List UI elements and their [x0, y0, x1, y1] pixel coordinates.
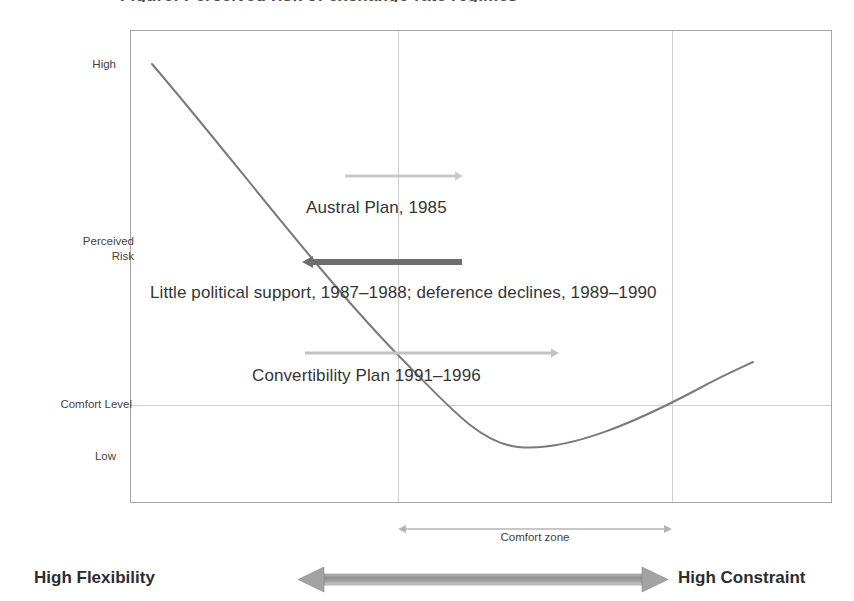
y-axis-label-perceived-line1: Perceived: [83, 234, 134, 249]
axis-label-high-flexibility: High Flexibility: [34, 568, 155, 588]
annotation-label-little-political-support: Little political support, 1987–1988; def…: [150, 283, 657, 303]
annotation-arrow-little-political-support: [302, 255, 462, 269]
flexibility-constraint-spectrum-arrow: [298, 566, 668, 594]
annotation-arrow-austral-plan: [345, 170, 463, 184]
y-axis-label-high: High: [92, 57, 116, 72]
gridline-comfort-level: [131, 405, 831, 406]
gridline-vertical-right: [672, 31, 673, 502]
y-axis-label-perceived-line2: Risk: [83, 249, 134, 264]
plot-area-frame: [130, 30, 832, 503]
y-axis-label-low: Low: [95, 449, 116, 464]
annotation-label-austral-plan: Austral Plan, 1985: [306, 198, 447, 218]
y-axis-label-comfort-level: Comfort Level: [60, 397, 132, 412]
chart-figure: Figure: Perceived risk of exchange-rate …: [0, 0, 854, 601]
axis-label-high-constraint: High Constraint: [678, 568, 806, 588]
y-axis-label-perceived-risk: Perceived Risk: [83, 234, 134, 264]
annotation-label-convertibility-plan: Convertibility Plan 1991–1996: [252, 366, 481, 386]
annotation-arrow-convertibility-plan: [305, 347, 559, 361]
comfort-zone-label: Comfort zone: [398, 531, 672, 543]
figure-title-sliver: Figure: Perceived risk of exchange-rate …: [120, 0, 540, 2]
